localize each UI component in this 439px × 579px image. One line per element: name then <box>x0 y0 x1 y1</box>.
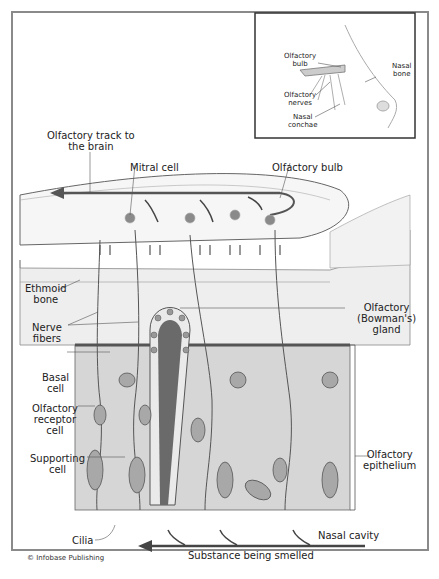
label-supporting-cell: Supporting cell <box>30 453 85 475</box>
label-substance-being-smelled: Substance being smelled <box>188 550 314 561</box>
label-nerve-fibers: Nerve fibers <box>32 322 62 344</box>
label-olfactory-bulb: Olfactory bulb <box>272 162 343 173</box>
label-olfactory-epithelium: Olfactory epithelium <box>363 449 416 471</box>
epithelium-region <box>75 345 350 510</box>
label-bowmans-gland: Olfactory (Bowman's) gland <box>357 302 416 335</box>
olfactory-bulb-shape <box>20 174 349 245</box>
label-ethmoid-bone: Ethmoid bone <box>25 283 67 305</box>
inset-label-nasal-bone: Nasal bone <box>392 62 411 78</box>
label-cilia: Cilia <box>72 535 93 546</box>
label-olfactory-receptor-cell: Olfactory receptor cell <box>32 403 78 436</box>
label-mitral-cell: Mitral cell <box>130 162 179 173</box>
label-nasal-cavity: Nasal cavity <box>318 530 379 541</box>
label-basal-cell: Basal cell <box>42 372 69 394</box>
label-olfactory-track: Olfactory track to the brain <box>47 130 135 152</box>
credit-text: © Infobase Publishing <box>27 554 104 562</box>
inset-label-olfactory-bulb: Olfactory bulb <box>284 52 316 68</box>
inset-label-nasal-conchae: Nasal conchae <box>288 113 317 129</box>
inset-box <box>255 13 415 138</box>
inset-label-olfactory-nerves: Olfactory nerves <box>284 91 316 107</box>
substance-arrow-head <box>138 540 152 552</box>
